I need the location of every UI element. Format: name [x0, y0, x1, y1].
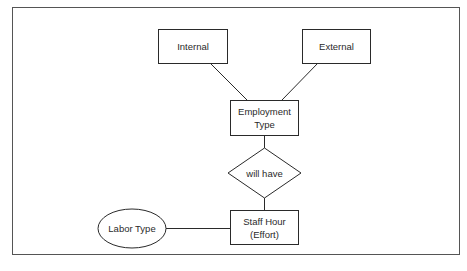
employment-type-label-line1: Employment — [238, 106, 291, 117]
node-internal: Internal — [159, 30, 228, 64]
will-have-label: will have — [245, 168, 282, 179]
staff-hour-label-line1: Staff Hour — [243, 216, 286, 227]
node-external: External — [303, 30, 371, 64]
node-staff-hour: Staff Hour (Effort) — [231, 211, 299, 245]
edge-external-employment — [282, 63, 318, 100]
er-diagram: Internal External Employment Type will h… — [0, 0, 467, 271]
staff-hour-label-line2: (Effort) — [250, 229, 279, 240]
employment-type-label-line2: Type — [254, 119, 275, 130]
edge-internal-employment — [210, 63, 247, 100]
labor-type-label: Labor Type — [108, 223, 155, 234]
node-employment-type: Employment Type — [231, 101, 299, 136]
internal-label: Internal — [177, 41, 209, 52]
external-label: External — [319, 41, 354, 52]
node-will-have: will have — [228, 148, 301, 198]
node-labor-type: Labor Type — [98, 209, 166, 248]
